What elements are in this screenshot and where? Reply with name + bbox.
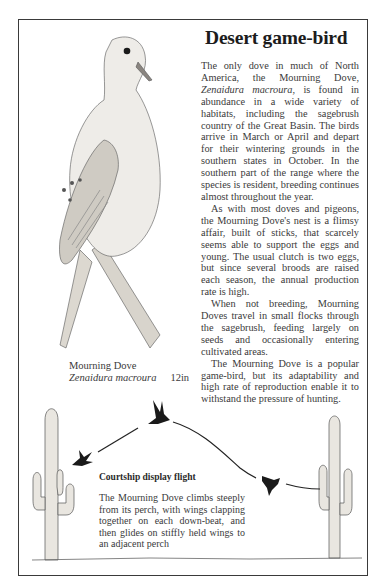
caption-scientific-name: Zenaidura macroura [69, 372, 156, 383]
scientific-name: Zenaidura macroura [201, 84, 292, 95]
left-saguaro-cactus [33, 409, 74, 560]
paragraph-3: When not breeding, Mourning Doves travel… [201, 298, 359, 358]
article-title: Desert game-bird [205, 27, 347, 49]
article-body: The only dove in much of North America, … [201, 60, 359, 405]
flight-path-descent [173, 422, 256, 478]
right-saguaro-cactus [319, 416, 352, 558]
mourning-dove-illustration [60, 37, 161, 348]
paragraph-1: The only dove in much of North America, … [201, 60, 359, 203]
paragraph-2: As with most doves and pigeons, the Mour… [201, 203, 359, 298]
courtship-description: The Mourning Dove climbs steeply from it… [99, 492, 245, 550]
caption-size: 12in [170, 372, 189, 383]
flight-path-glide [286, 484, 320, 489]
paragraph-4: The Mourning Dove is a popular game-bird… [201, 358, 359, 406]
ground-line [32, 558, 362, 560]
courtship-title: Courtship display flight [99, 472, 196, 482]
caption-common-name: Mourning Dove [69, 360, 189, 372]
illustration-caption: Mourning Dove Zenaidura macroura12in [69, 360, 189, 384]
flight-path-ascent [98, 428, 138, 452]
